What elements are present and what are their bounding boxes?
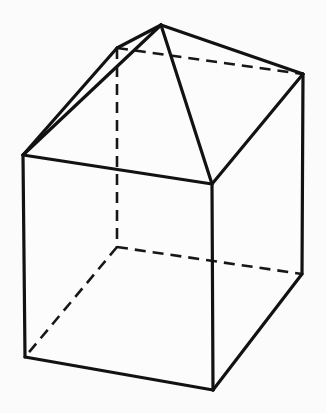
solid-figure-drawing bbox=[0, 0, 326, 413]
geometric-figure-canvas: Line drawing of a rectangular prism (cub… bbox=[0, 0, 326, 413]
edge-box-left-vertical bbox=[23, 155, 25, 357]
edge-box-front-vertical bbox=[212, 184, 213, 390]
edge-box-right-vertical bbox=[302, 74, 303, 274]
face-box-front-left bbox=[23, 155, 213, 390]
